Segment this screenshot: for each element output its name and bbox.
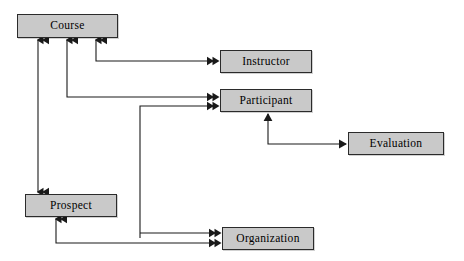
- edge-organization-participant: [140, 106, 218, 238]
- entity-label-evaluation: Evaluation: [370, 138, 423, 150]
- connector-layer: [0, 0, 464, 261]
- entity-label-participant: Participant: [239, 95, 292, 107]
- entity-box-evaluation[interactable]: Evaluation: [348, 132, 444, 155]
- entity-box-organization[interactable]: Organization: [222, 227, 314, 250]
- edge-participant-course: [67, 40, 218, 97]
- entity-box-instructor[interactable]: Instructor: [220, 50, 312, 73]
- entity-box-participant[interactable]: Participant: [220, 89, 312, 112]
- entity-box-prospect[interactable]: Prospect: [25, 194, 117, 217]
- entity-label-prospect: Prospect: [50, 200, 92, 212]
- edge-instructor-course: [96, 40, 218, 61]
- edge-organization-prospect: [56, 219, 220, 243]
- entity-label-organization: Organization: [236, 233, 299, 245]
- entity-label-course: Course: [50, 20, 84, 32]
- edge-evaluation-participant: [268, 114, 346, 144]
- entity-label-instructor: Instructor: [242, 56, 290, 68]
- entity-box-course[interactable]: Course: [17, 14, 118, 38]
- entity-relationship-diagram: Course Instructor Participant Evaluation…: [0, 0, 464, 261]
